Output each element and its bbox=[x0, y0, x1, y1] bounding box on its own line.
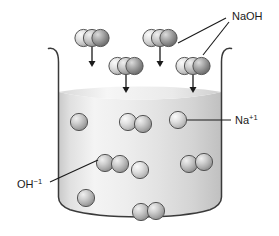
sphere-hydrogen bbox=[160, 29, 177, 46]
sphere-hydrogen bbox=[111, 155, 128, 172]
sphere-hydrogen bbox=[92, 29, 109, 46]
naoh-molecule bbox=[109, 57, 143, 88]
sphere-hydrogen bbox=[126, 57, 143, 74]
sodium-ion bbox=[169, 111, 186, 128]
label-sodium-ion: Na+1 bbox=[235, 113, 258, 126]
sphere-hydrogen bbox=[193, 57, 210, 74]
naoh-molecule bbox=[176, 57, 210, 88]
sodium-ion bbox=[77, 189, 94, 206]
label-hydroxide-charge: −1 bbox=[34, 177, 43, 186]
sphere-hydrogen bbox=[147, 202, 164, 219]
sodium-ion bbox=[131, 161, 148, 178]
sphere-oxygen bbox=[119, 113, 136, 130]
sphere-hydrogen bbox=[195, 153, 212, 170]
naoh-molecule-group bbox=[75, 29, 210, 88]
label-sodium-charge: +1 bbox=[249, 113, 258, 122]
naoh-molecule bbox=[75, 29, 109, 62]
label-naoh: NaOH bbox=[232, 10, 263, 22]
naoh-molecule bbox=[143, 29, 177, 62]
figure-canvas: NaOH Na+1 OH−1 bbox=[0, 0, 279, 236]
sphere-oxygen bbox=[180, 155, 197, 172]
leader-line-naoh-upper bbox=[178, 18, 226, 43]
sodium-ion bbox=[70, 113, 87, 130]
sphere-hydrogen bbox=[134, 115, 151, 132]
label-sodium-base: Na bbox=[235, 114, 250, 126]
molecular-diagram: NaOH Na+1 OH−1 bbox=[0, 0, 279, 236]
label-hydroxide-ion: OH−1 bbox=[17, 177, 42, 190]
label-hydroxide-base: OH bbox=[17, 178, 34, 190]
